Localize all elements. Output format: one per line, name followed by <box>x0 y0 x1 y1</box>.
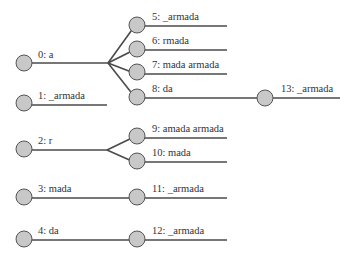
node-12: 12: _armada <box>129 225 227 247</box>
node-11: 11: _armada <box>129 183 227 205</box>
node-label: 11: _armada <box>152 183 204 194</box>
node-label: 2: r <box>38 135 53 146</box>
node-circle <box>16 189 32 205</box>
node-circle <box>16 55 32 71</box>
node-circle <box>257 90 273 106</box>
node-2: 2: r <box>16 135 107 157</box>
node-10: 10: mada <box>129 147 227 169</box>
node-0: 0: a <box>16 49 108 71</box>
node-circle <box>16 231 32 247</box>
node-label: 13: _armada <box>281 83 334 94</box>
node-4: 4: da <box>16 225 131 247</box>
node-label: 1: _armada <box>38 90 85 101</box>
node-circle <box>129 153 145 169</box>
node-circle <box>129 64 145 80</box>
node-6: 6: rmada <box>129 35 227 57</box>
node-8: 8: da <box>129 83 258 105</box>
node-circle <box>129 17 145 33</box>
node-1: 1: _armada <box>16 90 107 111</box>
node-label: 3: mada <box>38 183 72 194</box>
node-circle <box>16 95 32 111</box>
node-label: 12: _armada <box>152 225 205 236</box>
node-13: 13: _armada <box>257 83 340 106</box>
node-circle <box>129 128 145 144</box>
node-7: 7: mada armada <box>129 59 227 80</box>
node-circle <box>129 189 145 205</box>
node-label: 8: da <box>152 83 173 94</box>
node-circle <box>129 89 145 105</box>
node-label: 0: a <box>38 49 54 60</box>
node-5: 5: _armada <box>129 11 227 33</box>
node-9: 9: amada armada <box>129 123 227 144</box>
node-label: 7: mada armada <box>152 59 219 70</box>
node-label: 9: amada armada <box>152 123 224 134</box>
trie-diagram: 0: a 1: _armada 5: _armada 6: rmada 7: m… <box>0 0 350 259</box>
node-circle <box>129 231 145 247</box>
node-3: 3: mada <box>16 183 131 205</box>
node-label: 6: rmada <box>152 35 189 46</box>
node-label: 5: _armada <box>152 11 199 22</box>
node-circle <box>129 41 145 57</box>
node-circle <box>16 141 32 157</box>
node-label: 4: da <box>38 225 59 236</box>
node-label: 10: mada <box>152 147 191 158</box>
